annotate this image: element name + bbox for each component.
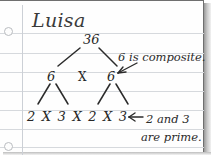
factor-tree-operator: X [78,71,87,83]
ruled-line [0,33,204,34]
annotation-prime-line1: 2 and 3 [146,112,190,126]
student-name: Luisa [32,11,86,30]
hole-punch-icon [4,27,13,36]
annotation-prime-line2: are prime. [141,130,202,144]
factor-tree-left-node: 6 [47,70,55,83]
hole-punch-icon [4,142,13,151]
ruled-line [0,91,204,92]
annotation-composite: 6 is composite. [118,50,205,64]
ruled-line [0,147,204,148]
notebook-page: Luisa 36 6 X 6 2 X 3 X 2 X 3 6 is compos… [0,0,215,155]
ruled-line [0,72,204,73]
factor-tree-right-node: 6 [107,70,115,83]
paper-shadow-bottom [3,152,211,155]
factor-tree-root: 36 [83,33,100,46]
factor-tree-leaf-row: 2 X 3 X 2 X 3 [27,110,128,123]
margin-line [22,5,23,155]
paper-shadow-right [204,3,211,155]
